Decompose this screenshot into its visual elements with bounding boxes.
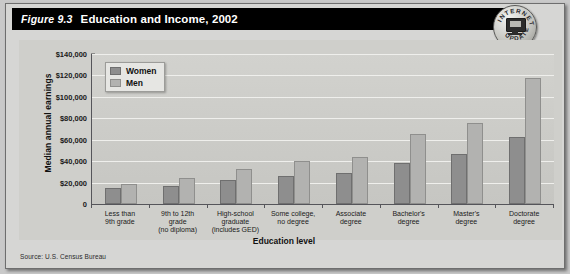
bar-group [265, 54, 323, 204]
figure-title: Education and Income, 2002 [81, 13, 238, 25]
bar-men[interactable] [236, 169, 252, 204]
x-tick-mark [91, 204, 92, 208]
legend-item-men: Men [110, 78, 157, 88]
bar-women[interactable] [509, 137, 525, 205]
x-category-label: Bachelor'sdegree [380, 210, 438, 235]
bar-group [439, 54, 497, 204]
bar-men[interactable] [525, 78, 541, 204]
y-tick-label: $60,000 [60, 135, 87, 144]
legend-swatch-women [110, 67, 121, 75]
y-tick-label: $140,000 [56, 50, 87, 59]
figure-title-bar: Figure 9.3 Education and Income, 2002 [12, 8, 512, 30]
x-axis-ticks [91, 204, 553, 208]
y-tick-label: 0 [83, 200, 87, 209]
bar-group [381, 54, 439, 204]
bar-group [208, 54, 266, 204]
x-axis-category-labels: Less than9th grade9th to 12thgrade(no di… [91, 210, 553, 235]
figure-frame: Figure 9.3 Education and Income, 2002 IN… [5, 3, 565, 269]
legend-label-men: Men [126, 78, 143, 88]
x-category-label: High-schoolgraduate(includes GED) [207, 210, 265, 235]
computer-monitor-icon [506, 18, 524, 35]
x-tick-mark [264, 204, 265, 208]
bar-men[interactable] [179, 178, 195, 204]
bar-women[interactable] [220, 180, 236, 204]
bar-women[interactable] [394, 163, 410, 204]
bar-men[interactable] [294, 161, 310, 204]
x-category-label: Less than9th grade [91, 210, 149, 235]
x-category-label: Associatedegree [322, 210, 380, 235]
x-tick-mark [495, 204, 496, 208]
y-tick-label: $100,000 [56, 92, 87, 101]
figure-number: Figure 9.3 [21, 13, 73, 25]
chart-legend: Women Men [105, 62, 165, 92]
x-tick-mark [207, 204, 208, 208]
bar-men[interactable] [467, 123, 483, 204]
bar-men[interactable] [121, 184, 137, 204]
legend-label-women: Women [126, 66, 157, 76]
x-tick-mark [149, 204, 150, 208]
bar-women[interactable] [336, 173, 352, 204]
y-axis-tick-labels: 0$20,000$40,000$60,000$80,000$100,000$12… [41, 40, 91, 210]
figure-root: Figure 9.3 Education and Income, 2002 IN… [0, 0, 570, 274]
bar-group [323, 54, 381, 204]
bar-women[interactable] [451, 154, 467, 204]
bar-men[interactable] [410, 134, 426, 204]
y-tick-label: $80,000 [60, 114, 87, 123]
y-tick-label: $40,000 [60, 157, 87, 166]
y-tick-label: $120,000 [56, 71, 87, 80]
bar-group [496, 54, 554, 204]
x-category-label: Doctoratedegree [495, 210, 553, 235]
bar-women[interactable] [163, 186, 179, 204]
x-category-label: Master'sdegree [438, 210, 496, 235]
x-tick-mark [553, 204, 554, 208]
bar-men[interactable] [352, 157, 368, 204]
chart-panel: Median annual earnings 0$20,000$40,000$6… [19, 40, 562, 240]
x-tick-mark [380, 204, 381, 208]
source-note: Source: U.S. Census Bureau [20, 253, 106, 260]
x-axis-title: Education level [6, 236, 562, 246]
plot-wrapper: Median annual earnings 0$20,000$40,000$6… [19, 40, 562, 240]
x-category-label: Some college,no degree [264, 210, 322, 235]
legend-item-women: Women [110, 66, 157, 76]
x-tick-mark [322, 204, 323, 208]
legend-swatch-men [110, 79, 121, 87]
y-tick-label: $20,000 [60, 178, 87, 187]
x-tick-mark [438, 204, 439, 208]
bar-women[interactable] [105, 188, 121, 204]
x-category-label: 9th to 12thgrade(no diploma) [149, 210, 207, 235]
bar-women[interactable] [278, 176, 294, 204]
